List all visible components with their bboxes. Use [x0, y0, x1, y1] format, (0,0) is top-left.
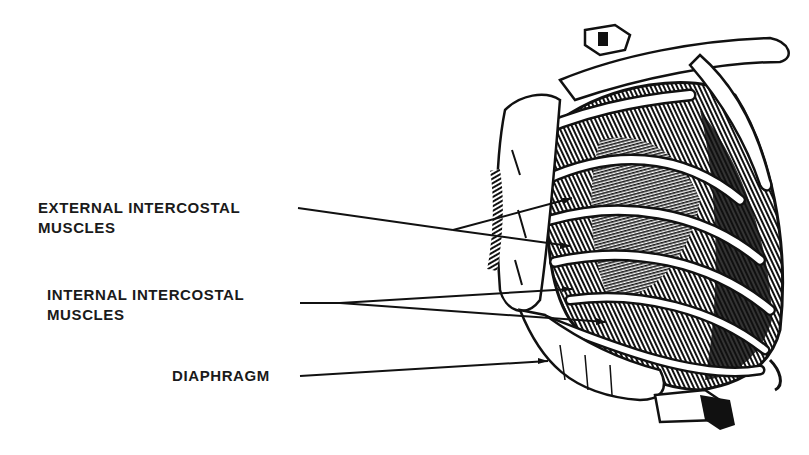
vertebra-top	[585, 25, 630, 55]
sternum	[492, 95, 560, 311]
label-internal-intercostal: INTERNAL INTERCOSTAL MUSCLES	[47, 285, 244, 325]
external-leader	[298, 208, 453, 230]
label-diaphragm: DIAPHRAGM	[172, 366, 270, 386]
diaphragm-leader	[300, 361, 548, 376]
label-external-intercostal: EXTERNAL INTERCOSTAL MUSCLES	[38, 198, 240, 238]
anatomy-diagram: EXTERNAL INTERCOSTAL MUSCLES INTERNAL IN…	[0, 0, 809, 455]
